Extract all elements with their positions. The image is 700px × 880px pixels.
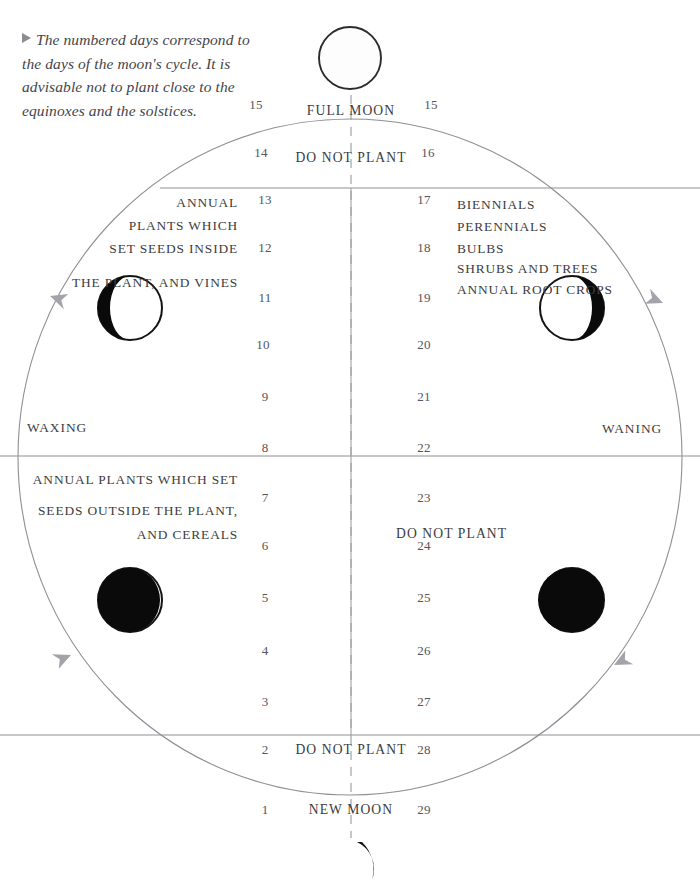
moon-waxing-crescent: [98, 568, 162, 632]
quadrant-upper-right-line-1: PERENNIALS: [457, 216, 547, 237]
day-number-left-10: 10: [250, 337, 276, 353]
moon-full-moon: [319, 27, 381, 89]
quadrant-upper-right-line-0: BIENNIALS: [457, 194, 535, 215]
day-number-left-14: 14: [248, 145, 274, 161]
day-number-left-8: 8: [252, 440, 278, 456]
day-number-left-1: 1: [252, 802, 278, 818]
day-number-left-12: 12: [252, 240, 278, 256]
quadrant-upper-left-line-0: ANNUAL: [60, 192, 238, 213]
do-not-plant-bottom: DO NOT PLANT: [281, 742, 421, 758]
day-number-left-15: 15: [243, 97, 269, 113]
moon-new-moon: [357, 842, 374, 880]
full-moon-label: FULL MOON: [281, 103, 421, 119]
quadrant-lower-left-line-0: ANNUAL PLANTS WHICH SET: [18, 469, 238, 490]
day-number-left-13: 13: [252, 192, 278, 208]
direction-arrow-lower-left: [52, 647, 74, 669]
intro-note-text: The numbered days correspond to the days…: [22, 31, 250, 119]
quadrant-upper-right-line-2: BULBS: [457, 238, 504, 259]
quadrant-upper-right-line-3: SHRUBS AND TREES: [457, 258, 598, 279]
day-number-right-29: 29: [411, 802, 437, 818]
quadrant-upper-left-line-1: PLANTS WHICH: [60, 215, 238, 236]
day-number-right-25: 25: [411, 590, 437, 606]
triangle-bullet-icon: [22, 33, 31, 43]
day-number-left-11: 11: [252, 290, 278, 306]
waxing-label: WAXING: [27, 420, 87, 436]
day-number-left-7: 7: [252, 490, 278, 506]
day-number-left-4: 4: [252, 643, 278, 659]
moon-cycle-diagram: The numbered days correspond to the days…: [0, 0, 700, 880]
moon-waning-crescent: [538, 568, 604, 632]
quadrant-upper-left-line-2: SET SEEDS INSIDE: [60, 238, 238, 259]
new-moon-label: NEW MOON: [281, 802, 421, 818]
quadrant-upper-right-line-4: ANNUAL ROOT CROPS: [457, 279, 613, 300]
day-number-right-27: 27: [411, 694, 437, 710]
day-number-right-20: 20: [411, 337, 437, 353]
day-number-right-28: 28: [411, 742, 437, 758]
day-number-right-18: 18: [411, 240, 437, 256]
day-number-right-19: 19: [411, 290, 437, 306]
day-number-right-23: 23: [411, 490, 437, 506]
day-number-left-5: 5: [252, 590, 278, 606]
day-number-left-2: 2: [252, 742, 278, 758]
day-number-left-9: 9: [252, 389, 278, 405]
day-number-left-6: 6: [252, 538, 278, 554]
day-number-right-15: 15: [418, 97, 444, 113]
do-not-plant-top: DO NOT PLANT: [281, 150, 421, 166]
intro-note: The numbered days correspond to the days…: [22, 28, 254, 122]
day-number-right-17: 17: [411, 192, 437, 208]
quadrant-lower-left-line-1: SEEDS OUTSIDE THE PLANT,: [18, 500, 238, 521]
day-number-right-16: 16: [415, 145, 441, 161]
day-number-left-3: 3: [252, 694, 278, 710]
quadrant-lower-left-line-2: AND CEREALS: [18, 524, 238, 545]
day-number-right-24: 24: [411, 538, 437, 554]
day-number-right-21: 21: [411, 389, 437, 405]
day-number-right-26: 26: [411, 643, 437, 659]
quadrant-upper-left-line-3: THE PLANT, AND VINES: [35, 272, 238, 293]
day-number-right-22: 22: [411, 440, 437, 456]
waning-label: WANING: [602, 421, 662, 437]
